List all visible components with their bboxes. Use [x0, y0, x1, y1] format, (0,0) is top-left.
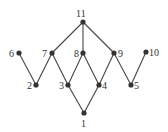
node-label-3: 3: [59, 80, 64, 91]
edge-4-1: [84, 85, 99, 113]
node-10: [143, 49, 148, 54]
node-3: [65, 82, 70, 87]
node-label-9: 9: [118, 48, 123, 59]
edge-3-1: [68, 85, 84, 113]
node-1: [81, 110, 86, 115]
node-label-7: 7: [42, 48, 47, 59]
edge-11-9: [83, 22, 114, 53]
node-label-6: 6: [9, 48, 14, 59]
node-11: [80, 19, 85, 24]
node-label-5: 5: [134, 80, 139, 91]
node-label-2: 2: [27, 80, 32, 91]
node-7: [49, 50, 54, 55]
node-5: [128, 82, 133, 87]
node-4: [96, 82, 101, 87]
node-label-11: 11: [76, 8, 86, 19]
node-label-4: 4: [102, 80, 107, 91]
node-2: [33, 82, 38, 87]
edge-8-4: [83, 53, 99, 85]
node-6: [16, 50, 21, 55]
node-label-8: 8: [74, 48, 79, 59]
hasse-diagram: 1234567891011: [0, 0, 168, 132]
edges-group: [19, 22, 146, 113]
node-label-10: 10: [149, 47, 159, 58]
node-9: [111, 50, 116, 55]
node-label-1: 1: [81, 118, 86, 129]
node-8: [80, 50, 85, 55]
